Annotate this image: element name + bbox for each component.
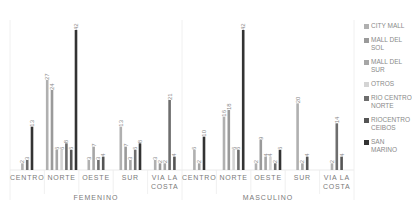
bar [168,100,171,170]
data-label: 3 [86,156,92,160]
category-label: OESTE [82,174,110,181]
bar [139,143,142,170]
category-label: CENTRO [182,174,216,181]
data-label: 21 [167,93,173,100]
bar [255,163,258,170]
bar [51,90,54,170]
bar [340,157,343,170]
bar [26,160,29,170]
legend-swatch-icon [364,38,369,43]
legend-label: OTROS [371,80,394,88]
data-label: 42 [73,23,79,30]
category-label: COSTA [323,183,351,190]
bar [60,150,63,170]
group-label: MASCULINO [243,194,294,201]
legend-item: OTROS [364,80,412,88]
data-label: 20 [295,96,301,103]
bar [264,157,267,170]
data-label: 4 [100,153,106,157]
bar [242,30,245,170]
legend-label: RIO CENTRO NORTE [371,94,412,110]
data-label: 4 [339,153,345,157]
data-label: 18 [226,103,232,110]
data-label: 13 [118,119,124,126]
legend-swatch-icon [364,60,369,65]
bar [331,163,334,170]
bar [129,160,132,170]
bar [31,127,34,170]
category-label: CENTRO [10,174,44,181]
bar [120,127,123,170]
legend-label: MALL DEL SUR [371,58,412,74]
bar [164,163,167,170]
bar-chart: 2313CENTRO2724668642NORTE3734OESTE137368… [0,0,412,218]
data-label: 6 [277,146,283,150]
bar [336,123,339,170]
category-label: NORTE [219,174,247,181]
legend-item: SAN MARINO [364,138,412,154]
bar [232,150,235,170]
data-label: 14 [334,116,340,123]
bar [159,163,162,170]
bar [56,150,59,170]
legend-swatch-icon [364,140,369,145]
bar [301,163,304,170]
data-label: 6 [235,146,241,150]
category-label: VIA LA [324,174,350,181]
legend-label: RIOCENTRO CEIBOS [371,116,412,132]
bar [203,137,206,170]
chart-legend: CITY MALLMALL DEL SOLMALL DEL SUROTROSRI… [364,22,412,160]
data-label: 10 [201,129,207,136]
data-label: 9 [258,136,264,140]
bar [279,150,282,170]
bar [46,80,49,170]
bar [97,160,100,170]
data-label: 7 [91,143,97,147]
category-label: VIA LA [152,174,178,181]
category-label: SUR [294,174,311,181]
data-label: 6 [59,146,65,150]
data-label: 4 [171,153,177,157]
data-label: 2 [272,159,278,163]
bar [75,30,78,170]
legend-swatch-icon [364,118,369,123]
bar [237,150,240,170]
category-label: COSTA [151,183,179,190]
bar [198,163,201,170]
data-label: 2 [162,159,168,163]
legend-item: RIOCENTRO CEIBOS [364,116,412,132]
legend-swatch-icon [364,24,369,29]
bar [21,163,24,170]
legend-item: MALL DEL SOL [364,36,412,52]
category-label: NORTE [47,174,75,181]
data-label: 7 [123,143,129,147]
data-label: 8 [63,139,69,143]
data-label: 24 [49,83,55,90]
data-label: 8 [137,139,143,143]
legend-item: CITY MALL [364,22,412,30]
data-label: 27 [44,73,50,80]
category-label: SUR [122,174,139,181]
bar [306,157,309,170]
data-label: 2 [196,159,202,163]
bar [88,160,91,170]
legend-item: RIO CENTRO NORTE [364,94,412,110]
bar [134,150,137,170]
data-label: 6 [191,146,197,150]
legend-swatch-icon [364,96,369,101]
legend-label: CITY MALL [371,22,404,30]
bar [228,110,231,170]
data-label: 3 [152,156,158,160]
data-label: 3 [127,156,133,160]
data-label: 6 [68,146,74,150]
bar [223,117,226,170]
data-label: 2 [299,159,305,163]
bar [274,163,277,170]
bar [173,157,176,170]
data-label: 2 [253,159,259,163]
data-label: 6 [132,146,138,150]
legend-item: MALL DEL SUR [364,58,412,74]
data-label: 4 [304,153,310,157]
legend-label: MALL DEL SOL [371,36,412,52]
group-label: FEMENINO [74,194,119,201]
